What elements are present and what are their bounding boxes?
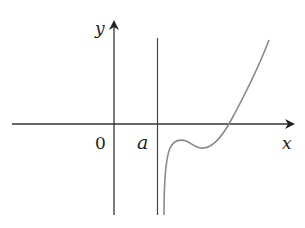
x-axis-label: x [282, 133, 292, 153]
function-curve [164, 40, 269, 215]
asymptote-label: a [137, 131, 148, 153]
y-axis-label: y [94, 18, 105, 38]
origin-label: 0 [95, 133, 106, 153]
graph-canvas: y 0 a x [0, 0, 305, 228]
